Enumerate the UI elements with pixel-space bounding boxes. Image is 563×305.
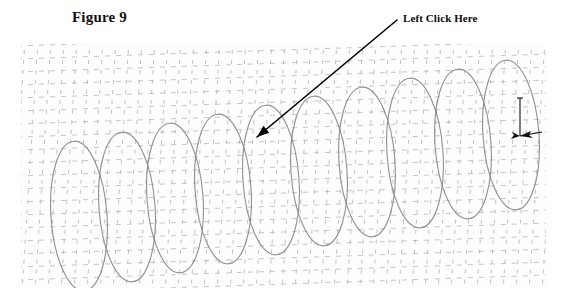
annotation-label: Left Click Here (403, 12, 478, 24)
figure-graphic (21, 44, 546, 288)
figure-caption: Figure 9 (72, 9, 127, 26)
document-page: Figure 9 Left Click Here (0, 0, 563, 305)
figure-image (21, 44, 546, 288)
